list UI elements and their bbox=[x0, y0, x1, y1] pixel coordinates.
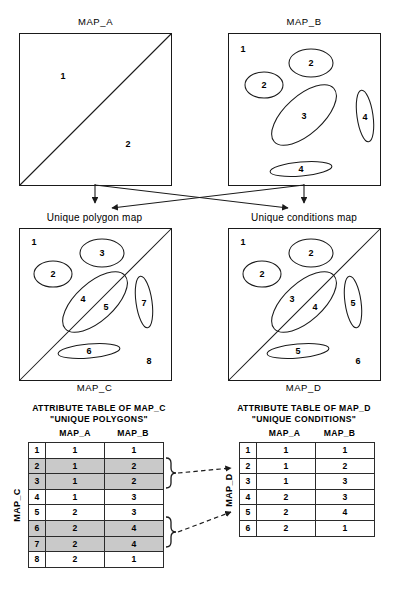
map-d-label-ellipse-bottom: 5 bbox=[295, 346, 300, 356]
map-d-table-row[interactable]: 423 bbox=[240, 489, 375, 505]
right-table-colhead-map-b: MAP_B bbox=[312, 428, 367, 438]
left-table-title-line1: ATTRIBUTE TABLE OF MAP_C bbox=[9, 403, 189, 414]
right-table-title: ATTRIBUTE TABLE OF MAP_D "UNIQUE CONDITI… bbox=[214, 403, 394, 425]
map-c-table-cell-map-a: 2 bbox=[46, 505, 105, 521]
map-b-geometry bbox=[229, 34, 380, 185]
map-d-table-cell-id: 4 bbox=[240, 489, 257, 505]
map-c-table-cell-map-a: 2 bbox=[46, 536, 105, 552]
map-c-table-cell-map-b: 1 bbox=[105, 443, 164, 459]
map-d-table-row[interactable]: 524 bbox=[240, 505, 375, 521]
map-a-title: MAP_A bbox=[19, 16, 172, 27]
map-c-table-row[interactable]: 624 bbox=[29, 520, 164, 536]
map-d-label-ellipse-left: 2 bbox=[259, 269, 264, 279]
map-d-table-cell-id: 5 bbox=[240, 505, 257, 521]
map-c-table-row[interactable]: 312 bbox=[29, 474, 164, 490]
map-d-table-cell-map-b: 1 bbox=[316, 443, 375, 459]
map-c-table-row[interactable]: 212 bbox=[29, 458, 164, 474]
map-c-table-cell-id: 3 bbox=[29, 474, 46, 490]
map-d-label-ellipse-right: 5 bbox=[350, 298, 355, 308]
figure-canvas: MAP_A 1 2 MAP_B 1 2 2 3 4 4 bbox=[0, 0, 400, 605]
attribute-table-map-c[interactable]: 111212312413523624724821 bbox=[28, 442, 164, 568]
map-d-table-cell-map-b: 2 bbox=[316, 458, 375, 474]
map-d-table-cell-map-a: 2 bbox=[257, 489, 316, 505]
left-table-title-line2: "UNIQUE POLYGONS" bbox=[9, 414, 189, 425]
map-d-table-cell-map-b: 4 bbox=[316, 505, 375, 521]
map-d-caption: MAP_D bbox=[228, 382, 379, 393]
map-d-table-row[interactable]: 621 bbox=[240, 520, 375, 536]
map-d-label-background-lower: 6 bbox=[355, 356, 360, 366]
map-a-label-region1: 1 bbox=[60, 71, 65, 81]
map-c-box: 1 3 2 4 5 7 6 8 bbox=[19, 228, 172, 381]
map-c-table-row[interactable]: 821 bbox=[29, 552, 164, 568]
map-b-label-background: 1 bbox=[240, 44, 245, 54]
map-a-geometry bbox=[20, 34, 171, 185]
map-d-table-cell-map-a: 1 bbox=[257, 443, 316, 459]
map-c-table-cell-map-b: 3 bbox=[105, 505, 164, 521]
map-d-table-cell-map-b: 1 bbox=[316, 520, 375, 536]
map-d-table-cell-id: 3 bbox=[240, 474, 257, 490]
left-table-title: ATTRIBUTE TABLE OF MAP_C "UNIQUE POLYGON… bbox=[9, 403, 189, 425]
map-d-table-cell-map-a: 2 bbox=[257, 505, 316, 521]
right-table-colhead-map-a: MAP_A bbox=[257, 428, 312, 438]
map-b-label-ellipse-bottom: 4 bbox=[298, 164, 303, 174]
map-d-table-cell-id: 1 bbox=[240, 443, 257, 459]
map-c-table-row[interactable]: 724 bbox=[29, 536, 164, 552]
map-b-label-ellipse-left: 2 bbox=[261, 80, 266, 90]
map-d-label-ellipse-top: 2 bbox=[308, 248, 313, 258]
map-c-table-cell-id: 4 bbox=[29, 489, 46, 505]
map-d-table-row[interactable]: 111 bbox=[240, 443, 375, 459]
left-table-colhead-map-a: MAP_A bbox=[46, 428, 104, 438]
map-d-box: 1 2 2 3 4 5 5 6 bbox=[228, 228, 381, 381]
map-c-table-cell-map-a: 1 bbox=[46, 443, 105, 459]
map-d-label-ellipse-big-left: 3 bbox=[289, 294, 294, 304]
map-d-title: Unique conditions map bbox=[218, 212, 390, 223]
right-table-title-line2: "UNIQUE CONDITIONS" bbox=[214, 414, 394, 425]
map-c-label-ellipse-big-left: 4 bbox=[80, 294, 85, 304]
map-c-table-cell-map-b: 3 bbox=[105, 489, 164, 505]
map-c-table-cell-id: 8 bbox=[29, 552, 46, 568]
attribute-table-map-d[interactable]: 111212313423524621 bbox=[239, 442, 375, 537]
left-table-colhead-map-b: MAP_B bbox=[104, 428, 162, 438]
map-c-table-cell-map-b: 4 bbox=[105, 520, 164, 536]
map-c-label-ellipse-bottom: 6 bbox=[86, 346, 91, 356]
map-c-table-cell-map-b: 4 bbox=[105, 536, 164, 552]
map-d-table-row[interactable]: 313 bbox=[240, 474, 375, 490]
map-d-table-cell-map-a: 1 bbox=[257, 458, 316, 474]
map-c-label-ellipse-right: 7 bbox=[141, 298, 146, 308]
map-c-table-cell-map-b: 2 bbox=[105, 474, 164, 490]
map-d-table-row[interactable]: 212 bbox=[240, 458, 375, 474]
map-c-table-cell-map-a: 2 bbox=[46, 520, 105, 536]
map-c-table-cell-map-a: 1 bbox=[46, 474, 105, 490]
map-c-table-cell-id: 7 bbox=[29, 536, 46, 552]
map-c-table-row[interactable]: 413 bbox=[29, 489, 164, 505]
map-d-label-ellipse-big-right: 4 bbox=[312, 302, 317, 312]
map-d-table-cell-id: 2 bbox=[240, 458, 257, 474]
map-c-table-row[interactable]: 523 bbox=[29, 505, 164, 521]
map-c-label-ellipse-top: 3 bbox=[99, 248, 104, 258]
map-c-table-cell-map-a: 2 bbox=[46, 552, 105, 568]
map-b-title: MAP_B bbox=[228, 16, 380, 27]
map-d-table-cell-map-b: 3 bbox=[316, 489, 375, 505]
map-c-label-background-lower: 8 bbox=[146, 356, 151, 366]
map-c-label-background: 1 bbox=[31, 237, 36, 247]
map-b-label-ellipse-top: 2 bbox=[308, 58, 313, 68]
map-a-box: 1 2 bbox=[19, 33, 172, 186]
map-c-table-cell-id: 2 bbox=[29, 458, 46, 474]
map-c-table-cell-map-b: 1 bbox=[105, 552, 164, 568]
map-c-table-cell-map-b: 2 bbox=[105, 458, 164, 474]
map-d-label-background: 1 bbox=[240, 237, 245, 247]
map-c-table-cell-map-a: 1 bbox=[46, 489, 105, 505]
map-c-table-cell-map-a: 1 bbox=[46, 458, 105, 474]
left-table-side-label: MAP_C bbox=[12, 488, 22, 522]
map-c-table-row[interactable]: 111 bbox=[29, 443, 164, 459]
map-d-table-cell-map-b: 3 bbox=[316, 474, 375, 490]
map-d-table-cell-map-a: 1 bbox=[257, 474, 316, 490]
map-c-table-cell-id: 1 bbox=[29, 443, 46, 459]
map-d-table-cell-map-a: 2 bbox=[257, 520, 316, 536]
map-c-caption: MAP_C bbox=[19, 382, 170, 393]
right-table-side-label: MAP_D bbox=[224, 473, 234, 507]
map-c-table-cell-id: 5 bbox=[29, 505, 46, 521]
map-c-table-cell-id: 6 bbox=[29, 520, 46, 536]
map-b-box: 1 2 2 3 4 4 bbox=[228, 33, 381, 186]
map-d-table-cell-id: 6 bbox=[240, 520, 257, 536]
